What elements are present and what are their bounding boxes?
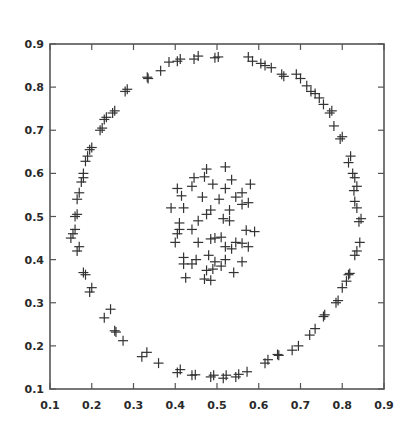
y-tick-label: 0.7 (25, 124, 45, 137)
x-tick-label: 0.7 (291, 399, 311, 412)
y-tick-label: 0.6 (25, 167, 45, 180)
y-tick-label: 0.1 (25, 383, 45, 396)
y-tick-label: 0.4 (25, 254, 45, 267)
x-tick-label: 0.5 (207, 399, 227, 412)
y-tick-label: 0.5 (25, 211, 45, 224)
y-tick-label: 0.3 (25, 297, 45, 310)
y-tick-label: 0.8 (25, 81, 45, 94)
y-tick-label: 0.2 (25, 340, 45, 353)
x-axis-tick-labels: 0.10.20.30.40.50.60.70.80.9 (40, 399, 394, 412)
x-tick-label: 0.1 (40, 399, 60, 412)
plot-area (50, 44, 384, 389)
y-axis-tick-labels: 0.10.20.30.40.50.60.70.80.9 (25, 38, 45, 396)
x-tick-label: 0.8 (333, 399, 353, 412)
y-tick-label: 0.9 (25, 38, 45, 51)
x-tick-label: 0.3 (124, 399, 144, 412)
x-tick-label: 0.2 (82, 399, 102, 412)
scatter-chart: 0.10.20.30.40.50.60.70.80.9 0.10.20.30.4… (0, 0, 418, 443)
x-tick-label: 0.9 (374, 399, 394, 412)
x-tick-label: 0.4 (166, 399, 186, 412)
x-tick-label: 0.6 (249, 399, 269, 412)
